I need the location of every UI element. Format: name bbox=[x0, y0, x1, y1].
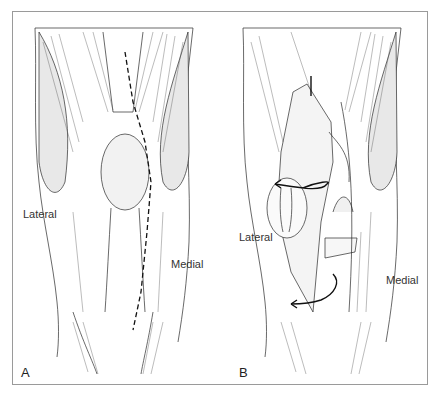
figure-frame: Lateral Medial A bbox=[12, 11, 428, 385]
lateral-label-a: Lateral bbox=[23, 208, 57, 220]
medial-label-b: Medial bbox=[386, 274, 418, 286]
panel-letter-a: A bbox=[21, 365, 30, 380]
knee-illustration-b bbox=[221, 12, 429, 386]
lateral-label-b: Lateral bbox=[239, 231, 273, 243]
panel-letter-b: B bbox=[239, 365, 248, 380]
panel-b: Lateral Medial B bbox=[221, 12, 429, 386]
knee-illustration-a bbox=[13, 12, 221, 386]
medial-label-a: Medial bbox=[171, 258, 203, 270]
panel-a: Lateral Medial A bbox=[13, 12, 221, 386]
